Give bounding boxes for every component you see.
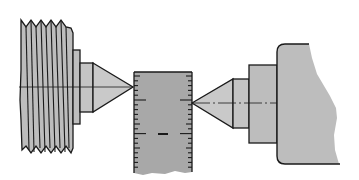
left-threaded-spindle: [20, 20, 73, 153]
diagram-figure: Work piece measured between two centers …: [0, 0, 359, 180]
graduated-scale: [134, 72, 192, 175]
diagram-canvas: [0, 0, 359, 180]
